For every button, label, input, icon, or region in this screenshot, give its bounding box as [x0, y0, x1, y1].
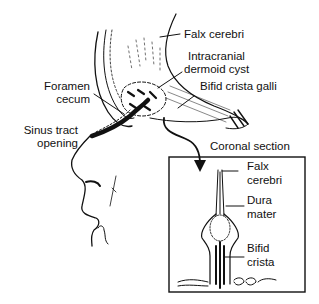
pointer-cyst: [158, 72, 182, 88]
eyebrow: [86, 181, 100, 186]
label-foramen-line1: Foramen: [30, 80, 90, 93]
inset-label-falx-line1: Falx: [247, 160, 269, 173]
label-sinus-line1: Sinus tract: [10, 124, 78, 137]
label-bifid-crista-galli: Bifid crista galli: [200, 80, 277, 93]
label-intracranial-line1: Intracranial: [188, 50, 245, 63]
inset-label-dura-line2: mater: [247, 208, 276, 221]
frontal-bone-inner: [104, 30, 134, 119]
frontal-bone-outer: [95, 32, 132, 126]
coronal-falx: [216, 170, 224, 216]
pointer-falx: [160, 34, 180, 37]
label-sinus-line2: opening: [10, 137, 78, 150]
inset-label-falx-line2: cerebri: [247, 174, 282, 187]
coronal-cyst: [210, 215, 230, 241]
inset-label-crista-line2: crista: [247, 256, 274, 269]
label-foramen-line2: cecum: [30, 93, 90, 106]
coronal-bifid-crista: [216, 242, 224, 288]
inset-title: Coronal section: [210, 140, 290, 153]
inset-label-crista-line1: Bifid: [247, 242, 269, 255]
label-falx-cerebri: Falx cerebri: [184, 28, 244, 41]
inset-label-dura-line1: Dura: [247, 194, 272, 207]
label-intracranial-line2: dermoid cyst: [184, 63, 249, 76]
inset-box: [169, 157, 305, 292]
arrow-head: [194, 160, 206, 172]
face-profile: [72, 136, 99, 246]
pointer-sinus: [84, 136, 90, 142]
